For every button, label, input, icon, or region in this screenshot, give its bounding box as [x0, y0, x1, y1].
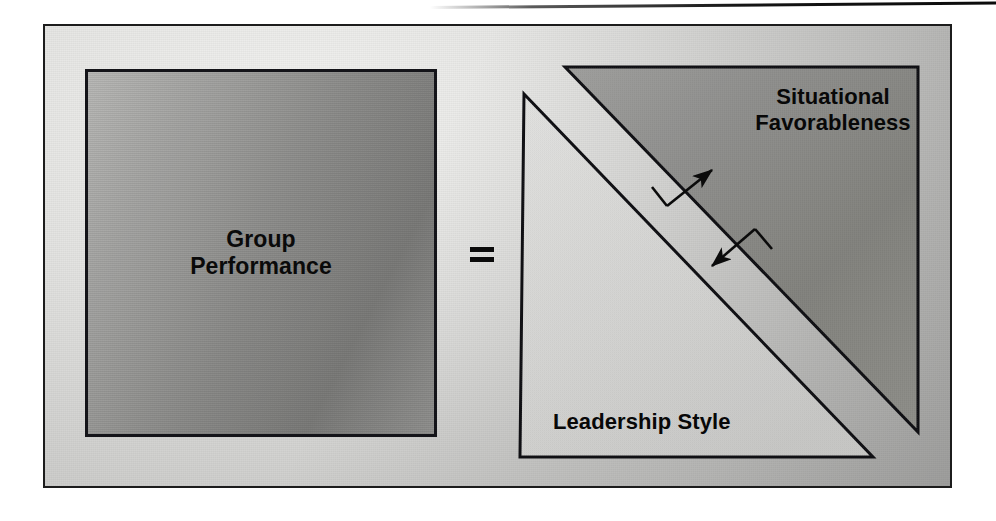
figure-frame: Group Performance	[43, 24, 952, 488]
equals-sign	[470, 247, 494, 262]
triangles-svg	[500, 54, 950, 474]
group-performance-box: Group Performance	[85, 69, 437, 437]
group-performance-label-line1: Group	[190, 226, 332, 253]
group-performance-label-line2: Performance	[190, 253, 332, 280]
group-performance-label: Group Performance	[190, 226, 332, 280]
equals-bar-bottom	[470, 257, 494, 262]
equals-bar-top	[470, 247, 494, 252]
arrow-up-right-tail	[652, 187, 667, 206]
diagram-page: Group Performance	[0, 0, 996, 521]
page-top-rule	[430, 2, 996, 9]
triangles-group: Situational Favorableness Leadership Sty…	[500, 54, 950, 474]
